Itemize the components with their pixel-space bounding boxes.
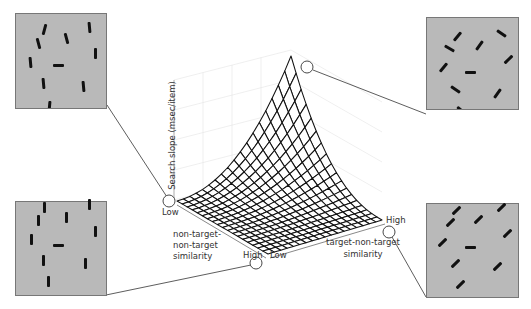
callout-circle-low-low xyxy=(163,195,175,207)
distractor-bar xyxy=(94,48,97,59)
distractor-bar xyxy=(63,32,69,43)
distractor-bar xyxy=(81,80,85,91)
distractor-bar xyxy=(503,54,513,64)
connector-top-right xyxy=(313,70,426,114)
callout-circle-peak xyxy=(301,61,313,73)
distractor-bar xyxy=(65,212,68,223)
distractor-bar xyxy=(35,37,41,48)
tick-origin-low: Low xyxy=(162,207,179,218)
distractor-bar xyxy=(450,85,461,94)
distractor-bar xyxy=(47,276,50,287)
target-bar xyxy=(53,244,64,247)
distractor-bar xyxy=(452,31,461,41)
stimulus-panel-top-left xyxy=(15,13,107,109)
distractor-bar xyxy=(496,202,506,212)
distractor-bar xyxy=(30,234,33,245)
distractor-bar xyxy=(492,261,502,271)
target-bar xyxy=(465,246,476,249)
target-bar xyxy=(53,64,64,67)
distractor-bar xyxy=(47,100,51,109)
distractor-bar xyxy=(443,44,454,52)
stimulus-panel-top-right xyxy=(426,17,519,110)
distractor-bar xyxy=(473,214,483,224)
distractor-bar xyxy=(475,40,484,51)
distractor-bar xyxy=(42,255,45,266)
distractor-bar xyxy=(41,77,45,88)
distractor-bar xyxy=(94,226,97,237)
distractor-bar xyxy=(41,23,47,34)
distractor-bar xyxy=(37,215,40,226)
distractor-bar xyxy=(437,237,447,247)
distractor-bar xyxy=(450,258,460,268)
y-axis-label-line-3: similarity xyxy=(173,251,212,262)
distractor-bar xyxy=(456,105,466,110)
stimulus-panel-bottom-left xyxy=(15,201,107,296)
y-axis-label-line-1: non-target- xyxy=(173,229,221,240)
tick-x-high: High xyxy=(386,215,406,226)
distractor-bar xyxy=(502,228,512,238)
connector-top-left xyxy=(107,105,167,197)
x-axis-label-text: target-non-target similarity xyxy=(318,236,408,260)
tick-y-high: High xyxy=(243,250,263,261)
z-axis-label: Search slope (msec/item) xyxy=(167,76,178,196)
y-axis-label-line-2: non-target xyxy=(173,240,218,251)
stimulus-panel-bottom-right xyxy=(426,203,519,298)
connector-bottom-left xyxy=(106,265,251,295)
distractor-bar xyxy=(88,199,91,210)
distractor-bar xyxy=(451,205,461,215)
distractor-bar xyxy=(455,279,465,289)
distractor-bar xyxy=(445,217,455,227)
distractor-bar xyxy=(28,56,32,67)
distractor-bar xyxy=(43,202,46,213)
distractor-bar xyxy=(84,258,87,269)
surface-mesh xyxy=(177,56,382,254)
x-axis-label: target-non-target similarity xyxy=(313,236,413,260)
distractor-bar xyxy=(493,88,502,99)
distractor-bar xyxy=(496,29,507,38)
distractor-bar xyxy=(87,21,91,32)
distractor-bar xyxy=(438,62,447,72)
target-bar xyxy=(465,71,476,74)
tick-x-low: Low xyxy=(270,250,287,261)
